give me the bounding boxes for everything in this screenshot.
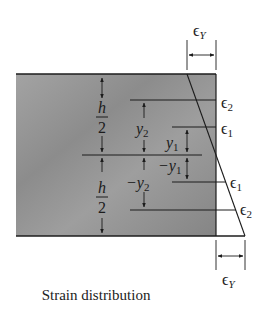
eps2-top-label: ϵ2 [221,94,233,113]
eps-y-top-label: ϵY [193,22,207,41]
figure-caption: Strain distribution [0,287,192,304]
eps1-top-label: ϵ1 [221,120,233,139]
eps1-bottom-label: ϵ1 [230,174,242,193]
eps2-bottom-label: ϵ2 [240,201,252,220]
h-bottom-denominator: 2 [98,199,106,216]
h-top-numerator: h [98,99,106,116]
h-bottom-numerator: h [98,179,106,196]
strain-distribution-diagram: ϵY ϵ2 ϵ1 ϵ1 ϵ2 ϵY h 2 h 2 y2 y1 −y1 −y2 [0,0,278,315]
h-top-denominator: 2 [98,119,106,136]
eps-y-bottom-label: ϵY [222,271,236,290]
